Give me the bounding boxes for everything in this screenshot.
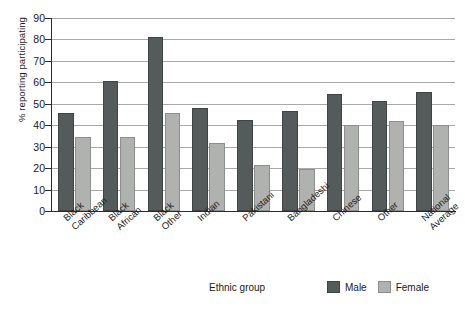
bar-male bbox=[282, 111, 298, 211]
y-tick-label: 40 bbox=[3, 120, 45, 130]
x-axis-title: Ethnic group bbox=[209, 282, 265, 293]
y-tick-mark bbox=[45, 82, 52, 83]
bar-chart-figure: % reporting participating 90807060504030… bbox=[0, 0, 465, 312]
y-tick-mark bbox=[45, 190, 52, 191]
legend-entry-female: Female bbox=[378, 281, 429, 293]
legend-label: Male bbox=[345, 282, 367, 293]
chart-legend: MaleFemale bbox=[327, 281, 429, 293]
y-tick-mark bbox=[45, 147, 52, 148]
y-tick-label: 20 bbox=[3, 163, 45, 173]
y-tick-label: 30 bbox=[3, 142, 45, 152]
y-tick-label: 80 bbox=[3, 34, 45, 44]
y-tick-label: 70 bbox=[3, 56, 45, 66]
y-tick-mark bbox=[45, 61, 52, 62]
y-tick-label: 90 bbox=[3, 13, 45, 23]
bar-male bbox=[58, 113, 74, 211]
bar-male bbox=[327, 94, 343, 211]
y-tick-mark bbox=[45, 18, 52, 19]
y-tick-label: 0 bbox=[3, 206, 45, 216]
legend-label: Female bbox=[396, 282, 429, 293]
y-tick-mark bbox=[45, 211, 52, 212]
y-tick-label: 60 bbox=[3, 77, 45, 87]
y-tick-mark bbox=[45, 168, 52, 169]
bar-male bbox=[416, 92, 432, 211]
y-tick-label: 10 bbox=[3, 185, 45, 195]
bar-group bbox=[52, 18, 97, 211]
legend-swatch-male bbox=[327, 281, 340, 293]
y-tick-mark bbox=[45, 125, 52, 126]
bar-male bbox=[372, 101, 388, 211]
legend-swatch-female bbox=[378, 281, 391, 293]
legend-entry-male: Male bbox=[327, 281, 367, 293]
y-axis-ticks: 9080706050403020100 bbox=[0, 0, 45, 312]
y-tick-mark bbox=[45, 39, 52, 40]
y-tick-mark bbox=[45, 104, 52, 105]
y-tick-label: 50 bbox=[3, 99, 45, 109]
